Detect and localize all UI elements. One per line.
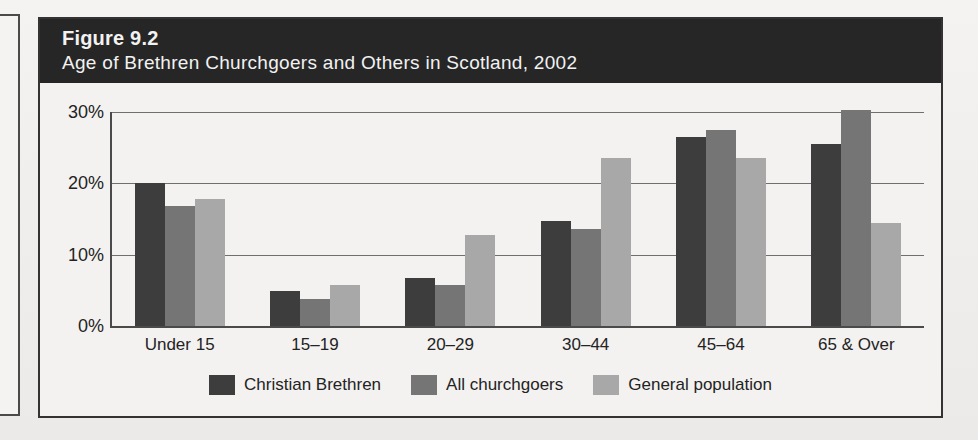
x-axis-tick-label: 65 & Over	[818, 335, 895, 355]
x-axis-tick-label: 20–29	[427, 335, 474, 355]
figure-title: Age of Brethren Churchgoers and Others i…	[62, 50, 941, 76]
bar	[841, 110, 871, 326]
y-axis-tick-label: 0%	[78, 316, 104, 337]
figure-number: Figure 9.2	[62, 26, 941, 50]
bar-group	[541, 112, 631, 326]
bar	[330, 285, 360, 326]
legend-swatch-icon	[209, 375, 235, 395]
y-axis-tick-label: 30%	[68, 102, 104, 123]
bar	[135, 183, 165, 326]
x-axis-tick-label: Under 15	[145, 335, 215, 355]
legend-label: General population	[628, 375, 772, 395]
legend-item: Christian Brethren	[209, 375, 381, 395]
bar-group	[135, 112, 225, 326]
bar-group	[676, 112, 766, 326]
bar	[405, 278, 435, 327]
plot-area: 0%10%20%30% Under 1515–1920–2930–4445–64…	[110, 112, 924, 328]
bar	[270, 291, 300, 326]
bar	[736, 158, 766, 326]
chart-legend: Christian BrethrenAll churchgoersGeneral…	[40, 375, 941, 395]
bar	[300, 299, 330, 326]
bar-series-layer	[112, 112, 924, 326]
bar	[706, 130, 736, 326]
legend-item: All churchgoers	[411, 375, 563, 395]
bar-group	[811, 112, 901, 326]
figure-title-banner: Figure 9.2 Age of Brethren Churchgoers a…	[40, 19, 941, 83]
y-axis-tick-label: 20%	[68, 173, 104, 194]
bar	[571, 229, 601, 326]
bar	[435, 285, 465, 326]
legend-swatch-icon	[411, 375, 437, 395]
x-axis-tick-label: 30–44	[562, 335, 609, 355]
bar	[465, 235, 495, 326]
bar-group	[270, 112, 360, 326]
bar	[165, 206, 195, 326]
legend-label: All churchgoers	[446, 375, 563, 395]
legend-swatch-icon	[593, 375, 619, 395]
figure-frame: Figure 9.2 Age of Brethren Churchgoers a…	[38, 17, 943, 418]
bar	[811, 144, 841, 326]
bar-group	[405, 112, 495, 326]
x-axis-tick-label: 15–19	[291, 335, 338, 355]
legend-item: General population	[593, 375, 772, 395]
bar	[601, 158, 631, 326]
bar	[541, 221, 571, 326]
bar	[871, 223, 901, 326]
y-axis-tick-label: 10%	[68, 244, 104, 265]
bar	[676, 137, 706, 326]
left-page-bleed-box	[0, 14, 20, 416]
bar	[195, 199, 225, 326]
x-axis-tick-label: 45–64	[697, 335, 744, 355]
chart-body: 0%10%20%30% Under 1515–1920–2930–4445–64…	[40, 83, 941, 416]
legend-label: Christian Brethren	[244, 375, 381, 395]
